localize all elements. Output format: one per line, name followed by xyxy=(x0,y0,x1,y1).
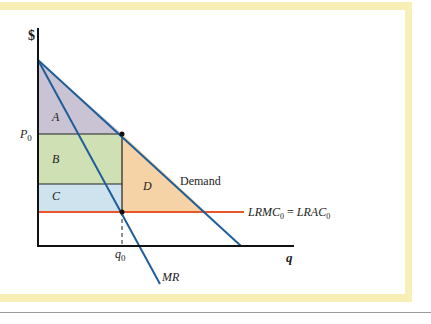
region-d xyxy=(122,134,206,212)
y-axis-label: $ xyxy=(28,28,35,43)
region-a-label: A xyxy=(51,110,60,124)
region-b-label: B xyxy=(52,152,60,166)
region-c xyxy=(38,184,122,212)
monopoly-point xyxy=(120,132,125,137)
monopoly-diagram: $ q P0 q0 A B C D Demand MR LRMC0 = LRAC… xyxy=(0,0,431,324)
p0-label: P0 xyxy=(19,127,32,143)
mr-label: MR xyxy=(161,270,180,284)
region-d-label: D xyxy=(142,179,152,193)
x-axis-label: q xyxy=(286,250,293,265)
region-c-label: C xyxy=(52,189,61,203)
demand-label: Demand xyxy=(180,174,221,188)
region-b xyxy=(38,134,122,184)
lrmc-lrac-label: LRMC0 = LRAC0 xyxy=(247,205,330,221)
mr-mc-point xyxy=(120,210,125,215)
q0-label: q0 xyxy=(115,247,126,263)
